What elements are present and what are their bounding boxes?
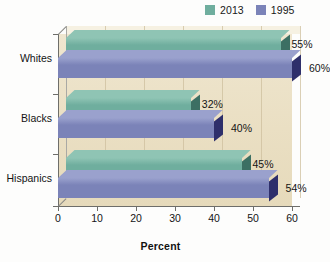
x-axis-tick — [58, 206, 59, 211]
bar-top-face — [58, 110, 223, 118]
bar-value-label: 55% — [292, 38, 313, 50]
x-axis-tick — [97, 206, 98, 211]
x-axis-tick-label: 0 — [55, 212, 61, 224]
x-axis-tick-label: 30 — [169, 212, 181, 224]
legend-swatch-1995-icon — [256, 5, 266, 15]
legend-item-1995[interactable]: 1995 — [256, 4, 295, 16]
y-axis-tick — [53, 34, 58, 35]
legend-label-2013: 2013 — [220, 4, 244, 16]
x-axis-tick — [175, 206, 176, 211]
chart-legend: 2013 1995 — [205, 4, 295, 16]
bar-value-label: 32% — [202, 98, 223, 110]
bar-blacks-1995[interactable] — [58, 118, 214, 138]
x-axis-line — [58, 206, 300, 207]
gridline — [300, 26, 301, 198]
y-axis-tick — [53, 154, 58, 155]
category-axis: Whites Blacks Hispanics — [0, 26, 56, 206]
bar-hispanics-1995[interactable] — [58, 178, 269, 198]
x-axis-tick — [292, 206, 293, 211]
x-axis-tick — [136, 206, 137, 211]
legend-swatch-2013-icon — [205, 5, 215, 15]
category-label-blacks: Blacks — [21, 112, 52, 124]
bar-value-label: 54% — [286, 182, 307, 194]
plot-area: 55%60%32%40%45%54% — [58, 26, 300, 206]
bar-value-label: 45% — [253, 158, 274, 170]
bar-face — [58, 58, 292, 78]
bar-value-label: 40% — [231, 122, 252, 134]
x-axis-tick-label: 50 — [247, 212, 259, 224]
x-axis-tick-label: 20 — [130, 212, 142, 224]
x-axis-tick — [214, 206, 215, 211]
bar-top-face — [58, 170, 277, 178]
x-axis-tick-label: 60 — [286, 212, 298, 224]
y-axis-tick — [53, 94, 58, 95]
bar-value-label: 60% — [309, 62, 330, 74]
bar-top-face — [58, 50, 301, 58]
x-axis-tick-label: 10 — [91, 212, 103, 224]
bar-top-face — [66, 90, 199, 98]
bar-face — [58, 118, 214, 138]
bar-face — [58, 178, 269, 198]
category-label-whites: Whites — [20, 52, 52, 64]
x-axis-title: Percent — [0, 240, 321, 252]
legend-label-1995: 1995 — [271, 4, 295, 16]
bar-top-face — [66, 30, 289, 38]
bar-whites-1995[interactable] — [58, 58, 292, 78]
bar-top-face — [66, 150, 250, 158]
x-axis-tick — [253, 206, 254, 211]
category-label-hispanics: Hispanics — [6, 172, 52, 184]
x-axis-tick-label: 40 — [208, 212, 220, 224]
legend-item-2013[interactable]: 2013 — [205, 4, 244, 16]
